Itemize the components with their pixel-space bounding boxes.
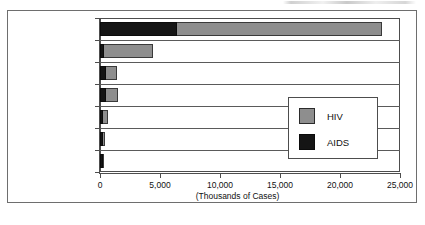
bar-stack	[100, 22, 382, 35]
y-axis-tick	[95, 62, 100, 63]
bar-segment-hiv	[103, 132, 105, 145]
x-axis-tick	[340, 173, 341, 178]
legend-swatch-hiv-icon	[299, 108, 315, 124]
x-axis-tick	[280, 173, 281, 178]
chart-legend: HIV AIDS	[288, 97, 378, 159]
bar-segment-hiv	[103, 154, 104, 167]
bar-stack	[100, 66, 117, 79]
x-axis-line	[99, 173, 401, 174]
chart-figure: Sub-Saharan AfricaSoutheast AsiaLatin Am…	[0, 0, 425, 225]
x-axis-tick	[160, 173, 161, 178]
y-axis-tick	[95, 106, 100, 107]
bar-stack	[100, 132, 105, 145]
legend-swatch-aids-icon	[299, 134, 315, 150]
legend-item-aids: AIDS	[299, 134, 349, 150]
bar-segment-aids	[100, 22, 177, 35]
legend-label-aids: AIDS	[327, 137, 349, 148]
bar-stack	[100, 154, 104, 167]
bar-stack	[100, 44, 153, 57]
x-axis-tick-label: 20,000	[327, 180, 353, 190]
scan-artifact-strip	[283, 1, 416, 4]
y-axis-tick	[95, 18, 100, 19]
x-axis-tick-label: 10,000	[207, 180, 233, 190]
y-axis-tick	[95, 84, 100, 85]
x-axis-tick	[100, 173, 101, 178]
x-axis-tick-label: 5,000	[149, 180, 170, 190]
x-axis-tick-label: 15,000	[267, 180, 293, 190]
category-separator-line	[100, 40, 400, 41]
x-axis-title-text: (Thousands of Cases)	[196, 191, 280, 201]
y-axis-tick	[95, 40, 100, 41]
legend-label-hiv: HIV	[327, 111, 343, 122]
legend-item-hiv: HIV	[299, 108, 343, 124]
bar-segment-hiv	[103, 110, 108, 123]
y-axis-tick	[95, 128, 100, 129]
x-axis-tick-label: 0	[98, 180, 103, 190]
category-separator-line	[100, 62, 400, 63]
y-axis-tick	[95, 150, 100, 151]
x-axis-tick	[400, 173, 401, 178]
x-axis-title: (Thousands of Cases)	[0, 191, 425, 201]
bar-stack	[100, 88, 118, 101]
bar-segment-hiv	[104, 44, 153, 57]
x-axis-tick-label: 25,000	[387, 180, 413, 190]
bar-stack	[100, 110, 108, 123]
bar-segment-hiv	[106, 66, 117, 79]
bar-segment-hiv	[106, 88, 118, 101]
x-axis-tick	[220, 173, 221, 178]
bar-segment-hiv	[177, 22, 382, 35]
category-separator-line	[100, 84, 400, 85]
